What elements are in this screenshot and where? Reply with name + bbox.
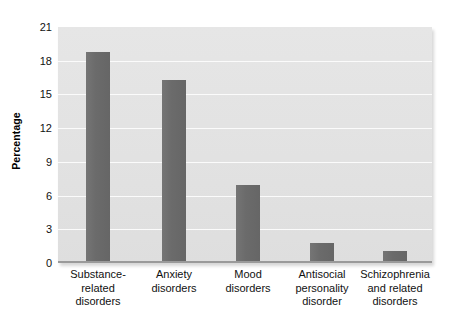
bar-chart-figure: Percentage 21 18 15 12 9 6 3 0 Substance… <box>0 0 460 330</box>
gridline <box>58 162 432 163</box>
x-axis-category-labels: Substance-relateddisorders Anxietydisord… <box>58 268 432 328</box>
bar-substance-related-disorders <box>86 52 110 263</box>
y-tick-label: 18 <box>6 55 52 67</box>
y-tick-label: 15 <box>6 88 52 100</box>
y-tick-label: 0 <box>6 257 52 269</box>
y-tick-label: 12 <box>6 122 52 134</box>
y-tick-label: 9 <box>6 156 52 168</box>
x-category-label: Substance-relateddisorders <box>55 268 141 309</box>
plot-area <box>58 27 432 263</box>
y-tick-label: 6 <box>6 190 52 202</box>
gridline <box>58 94 432 95</box>
y-tick-label: 21 <box>6 21 52 33</box>
bar-anxiety-disorders <box>162 80 186 263</box>
x-axis-line <box>58 261 432 263</box>
x-category-label: Schizophreniaand relateddisorders <box>352 268 438 309</box>
y-axis-tick-labels: 21 18 15 12 9 6 3 0 <box>0 27 52 263</box>
bar-antisocial-personality-disorder <box>310 243 334 263</box>
y-tick-label: 3 <box>6 223 52 235</box>
bar-mood-disorders <box>236 185 260 263</box>
gridline <box>58 61 432 62</box>
gridline <box>58 128 432 129</box>
